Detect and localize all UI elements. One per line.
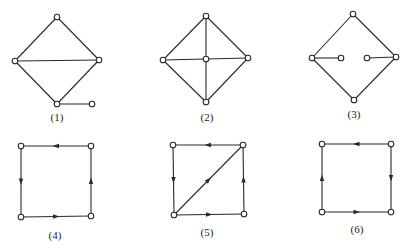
edge-left-right xyxy=(15,60,99,61)
vertex-bottom xyxy=(54,101,60,107)
vertex-bottom xyxy=(351,97,357,103)
directed-graph-4: (4) xyxy=(18,143,94,242)
arrow-icon xyxy=(53,214,60,218)
arrow-icon xyxy=(354,210,361,214)
edge-right-bottom xyxy=(354,57,396,100)
vertex-tl xyxy=(170,142,176,148)
vertex-center xyxy=(203,56,209,62)
edge-center-right xyxy=(206,58,248,59)
edge-top-right xyxy=(206,16,248,58)
vertex-left xyxy=(309,55,315,61)
vertex-left xyxy=(160,57,166,63)
vertex-bottom xyxy=(203,99,209,105)
vertex-top xyxy=(54,14,60,20)
vertex-pendant xyxy=(89,101,95,107)
vertex-br xyxy=(241,211,247,217)
vertex-right xyxy=(96,57,102,63)
arrow-icon xyxy=(171,177,175,184)
graph-figure-canvas: (1) (2) (3) (4) (5) (6) xyxy=(0,0,409,248)
edge-inner_right-right xyxy=(367,57,396,58)
edge-top-left xyxy=(163,16,206,60)
vertex-tr xyxy=(388,141,394,147)
vertex-inner_right xyxy=(364,55,370,61)
vertex-right xyxy=(245,55,251,61)
graph-2: (2) xyxy=(160,13,251,124)
vertex-tr xyxy=(240,142,246,148)
arrow-icon xyxy=(241,176,245,183)
vertex-inner_left xyxy=(338,55,344,61)
edge-top-left xyxy=(312,14,353,58)
edge-left-bottom xyxy=(312,58,354,100)
edge-right-bottom xyxy=(206,58,248,102)
vertex-right xyxy=(393,54,399,60)
vertex-left xyxy=(12,58,18,64)
vertex-br xyxy=(388,209,394,215)
graph-label: (4) xyxy=(49,229,62,242)
edge-top-left xyxy=(15,17,57,61)
vertex-bl xyxy=(319,209,325,215)
arrow-icon xyxy=(206,212,213,216)
vertex-tl xyxy=(18,143,24,149)
directed-graph-5: (5) xyxy=(170,142,247,239)
arrow-icon xyxy=(89,178,93,185)
graph-1: (1) xyxy=(12,14,102,124)
edge-left-bottom xyxy=(15,61,57,104)
edge-top-right xyxy=(353,14,396,57)
edge-left-center xyxy=(163,59,206,60)
vertex-tr xyxy=(88,143,94,149)
vertex-br xyxy=(88,213,94,219)
edge-top-right xyxy=(57,17,99,60)
arrow-icon xyxy=(353,142,360,146)
vertex-top xyxy=(350,11,356,17)
graph-3: (3) xyxy=(309,11,399,121)
graph-label: (2) xyxy=(201,111,214,124)
arrow-icon xyxy=(389,175,393,182)
directed-graph-6: (6) xyxy=(319,141,394,236)
arrow-icon xyxy=(320,175,324,182)
arrow-icon xyxy=(205,143,212,147)
arrow-icon xyxy=(53,144,60,148)
vertex-bl xyxy=(171,212,177,218)
edge-left-bottom xyxy=(163,60,206,102)
graph-label: (3) xyxy=(348,108,361,121)
vertex-tl xyxy=(319,141,325,147)
edge-right-bottom xyxy=(57,60,99,104)
vertex-bl xyxy=(18,214,24,220)
graph-label: (5) xyxy=(201,226,214,239)
vertex-top xyxy=(203,13,209,19)
graph-label: (6) xyxy=(351,223,364,236)
graph-label: (1) xyxy=(51,111,64,124)
arrow-icon xyxy=(19,179,23,186)
